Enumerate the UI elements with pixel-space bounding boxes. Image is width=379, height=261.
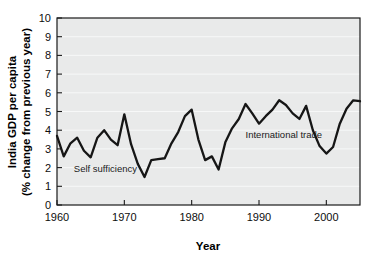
y-tick-label: 9 (45, 31, 51, 43)
x-tick-label: 2000 (314, 211, 338, 223)
chart-annotation: Self sufficiency (74, 163, 137, 174)
y-tick-label: 8 (45, 49, 51, 61)
y-tick-label: 10 (39, 12, 51, 24)
y-tick-label: 2 (45, 162, 51, 174)
x-tick-label: 1990 (247, 211, 271, 223)
y-tick-label: 5 (45, 106, 51, 118)
line-chart: 012345678910 19601970198019902000 Year I… (0, 0, 379, 261)
chart-annotation: International trade (246, 129, 323, 140)
y-axis-title-line1: India GDP per capita (6, 55, 18, 168)
y-tick-label: 1 (45, 180, 51, 192)
y-tick-label: 0 (45, 199, 51, 211)
y-tick-label: 4 (45, 124, 51, 136)
x-tick-label: 1970 (112, 211, 136, 223)
y-tick-label: 6 (45, 87, 51, 99)
y-tick-label: 3 (45, 143, 51, 155)
y-axis-title-line2: (% change from previous year) (20, 28, 32, 196)
x-axis-title: Year (196, 240, 221, 252)
chart-figure: 012345678910 19601970198019902000 Year I… (0, 0, 379, 261)
x-tick-label: 1960 (45, 211, 69, 223)
x-tick-label: 1980 (179, 211, 203, 223)
y-tick-label: 7 (45, 68, 51, 80)
